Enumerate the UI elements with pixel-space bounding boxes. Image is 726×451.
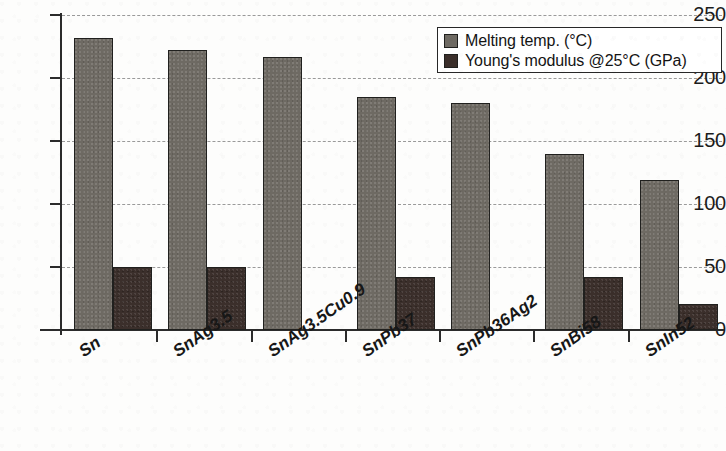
x-axis-tick <box>533 331 535 342</box>
legend-item: Young's modulus @25°C (GPa) <box>444 51 715 71</box>
legend-swatch-youngs-modulus <box>444 54 458 68</box>
bar-chart: 050100150200250 SnSnAg3.5SnAg3.5Cu0.9SnP… <box>0 0 726 451</box>
legend-item: Melting temp. (°C) <box>444 31 715 51</box>
legend-label-melting-temp: Melting temp. (°C) <box>465 33 592 49</box>
bar-melting-temp <box>263 57 302 330</box>
x-axis-tick <box>156 331 158 342</box>
legend: Melting temp. (°C) Young's modulus @25°C… <box>437 27 722 73</box>
x-axis-tick <box>345 331 347 342</box>
x-axis-tick <box>439 331 441 342</box>
bar-melting-temp <box>168 50 207 330</box>
x-axis-tick <box>628 331 630 342</box>
bar-youngs-modulus <box>113 267 152 330</box>
bar-melting-temp <box>640 180 679 330</box>
bar-melting-temp <box>74 38 113 330</box>
bar-melting-temp <box>451 103 490 330</box>
x-axis-tick <box>251 331 253 342</box>
x-axis-category-label: Sn <box>76 334 104 361</box>
legend-label-youngs-modulus: Young's modulus @25°C (GPa) <box>465 53 687 69</box>
legend-swatch-melting-temp <box>444 34 458 48</box>
bar-melting-temp <box>545 154 584 330</box>
